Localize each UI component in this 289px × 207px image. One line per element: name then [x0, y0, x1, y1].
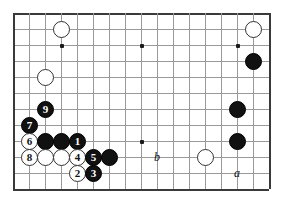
stone-white-move-4[interactable]: 4 — [69, 149, 86, 166]
board-grid-line-vertical — [269, 13, 271, 189]
board-grid-line-horizontal — [13, 189, 269, 191]
star-point — [60, 44, 64, 48]
go-diagram-root: ba976184523 — [0, 0, 289, 207]
stone-white-move-6[interactable]: 6 — [21, 133, 38, 150]
stone-white[interactable] — [53, 21, 70, 38]
stone-white-move-8[interactable]: 8 — [21, 149, 38, 166]
board-point-label-b[interactable]: b — [149, 149, 165, 165]
stone-black-move-9[interactable]: 9 — [37, 101, 54, 118]
stone-black[interactable] — [101, 149, 118, 166]
go-board[interactable]: ba976184523 — [0, 0, 289, 207]
stone-white[interactable] — [37, 69, 54, 86]
stone-black[interactable] — [53, 133, 70, 150]
star-point — [140, 44, 144, 48]
stone-black[interactable] — [229, 101, 246, 118]
board-grid-line-vertical — [221, 13, 222, 189]
board-grid-line-vertical — [125, 13, 126, 189]
stone-black-move-1[interactable]: 1 — [69, 133, 86, 150]
board-grid-line-vertical — [253, 13, 254, 189]
board-grid-line-vertical — [141, 13, 142, 189]
stone-white[interactable] — [53, 149, 70, 166]
stone-white[interactable] — [37, 149, 54, 166]
board-grid-line-vertical — [173, 13, 174, 189]
stone-black-move-5[interactable]: 5 — [85, 149, 102, 166]
star-point — [140, 140, 144, 144]
stone-black-move-3[interactable]: 3 — [85, 165, 102, 182]
board-grid-line-vertical — [189, 13, 190, 189]
stone-black-move-7[interactable]: 7 — [21, 117, 38, 134]
board-point-label-a[interactable]: a — [229, 165, 245, 181]
stone-black[interactable] — [229, 133, 246, 150]
board-grid-line-vertical — [13, 13, 15, 189]
stone-white[interactable] — [197, 149, 214, 166]
stone-white[interactable] — [245, 21, 262, 38]
stone-black[interactable] — [245, 53, 262, 70]
stone-black[interactable] — [37, 133, 54, 150]
stone-white-move-2[interactable]: 2 — [69, 165, 86, 182]
star-point — [236, 44, 240, 48]
